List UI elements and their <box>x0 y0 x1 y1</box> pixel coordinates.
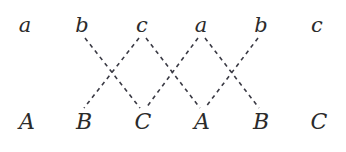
bottom-node-label-1-B: B <box>76 111 92 133</box>
top-node-label-0-a: a <box>19 15 32 36</box>
top-node-label-5-c: c <box>311 15 323 36</box>
bottom-node-label-3-A: A <box>194 111 210 133</box>
top-node-label-3-a: a <box>195 15 208 36</box>
edge-layer <box>0 0 346 152</box>
top-node-label-4-b: b <box>254 15 267 36</box>
dashed-edge-group <box>84 38 259 108</box>
bottom-node-label-0-A: A <box>19 111 35 133</box>
bottom-node-label-5-C: C <box>311 111 328 133</box>
edge-t3-b2 <box>146 38 198 108</box>
crossing-diagram-figure: abcabc ABCABC <box>0 0 346 152</box>
top-node-label-2-c: c <box>136 15 148 36</box>
top-node-label-1-b: b <box>75 15 88 36</box>
bottom-node-label-2-C: C <box>135 111 152 133</box>
bottom-node-label-4-B: B <box>253 111 269 133</box>
